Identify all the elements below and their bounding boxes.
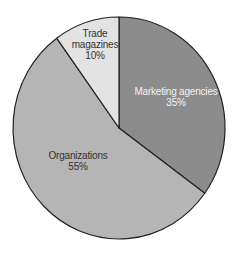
pie-chart <box>0 0 237 253</box>
label-trade-magazines: Trade magazines 10% <box>72 28 119 61</box>
label-marketing-agencies-value: 35% <box>134 97 217 108</box>
pie-slices <box>13 17 225 239</box>
label-marketing-agencies: Marketing agencies 35% <box>134 86 217 108</box>
label-trade-magazines-name-1: Trade <box>72 28 119 39</box>
label-trade-magazines-name-2: magazines <box>72 39 119 50</box>
label-marketing-agencies-name: Marketing agencies <box>134 86 217 97</box>
label-organizations: Organizations 55% <box>48 150 107 172</box>
label-organizations-value: 55% <box>48 161 107 172</box>
label-organizations-name: Organizations <box>48 150 107 161</box>
label-trade-magazines-value: 10% <box>72 50 119 61</box>
